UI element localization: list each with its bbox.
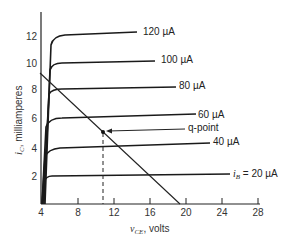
q-point-label: q-point — [188, 122, 219, 133]
x-tick-label: 8 — [75, 207, 81, 218]
x-tick-labels: 4 8 12 16 20 24 28 — [38, 207, 264, 218]
curve-ib-100 — [44, 61, 155, 204]
curve-ib-60 — [42, 114, 196, 204]
curve-label-100: 100 µA — [161, 54, 193, 65]
y-tick-label: 4 — [31, 143, 37, 154]
y-tick-label: 12 — [26, 31, 38, 42]
transistor-characteristic-chart: 4 8 12 16 20 24 28 2 4 6 8 10 12 120 µA … — [0, 0, 294, 239]
load-line — [40, 73, 180, 204]
y-tick-label: 10 — [26, 58, 38, 69]
curve-label-40: 40 µA — [213, 136, 240, 147]
y-tick-label: 6 — [31, 113, 37, 124]
y-tick-labels: 2 4 6 8 10 12 — [26, 31, 38, 182]
q-point-arrow-head — [106, 129, 112, 134]
curve-label-60: 60 µA — [198, 109, 225, 120]
x-tick-label: 12 — [108, 207, 120, 218]
x-ticks — [78, 198, 258, 204]
y-tick-label: 8 — [31, 84, 37, 95]
q-point-marker — [101, 130, 105, 134]
x-axis-title: vCE, volts — [130, 223, 170, 236]
x-tick-label: 16 — [144, 207, 156, 218]
x-tick-label: 24 — [216, 207, 228, 218]
curve-ib-20 — [42, 174, 230, 204]
curve-label-ib-20: iB = 20 µA — [233, 168, 278, 181]
q-point-arrow-line — [108, 129, 185, 131]
curve-label-120: 120 µA — [143, 26, 175, 37]
curve-ib-40 — [42, 143, 210, 204]
y-axis-title: iC, milliamperes — [12, 86, 26, 155]
x-tick-label: 4 — [38, 207, 44, 218]
curve-label-80: 80 µA — [179, 80, 206, 91]
x-tick-label: 20 — [180, 207, 192, 218]
x-tick-label: 28 — [252, 207, 264, 218]
y-tick-label: 2 — [31, 171, 37, 182]
